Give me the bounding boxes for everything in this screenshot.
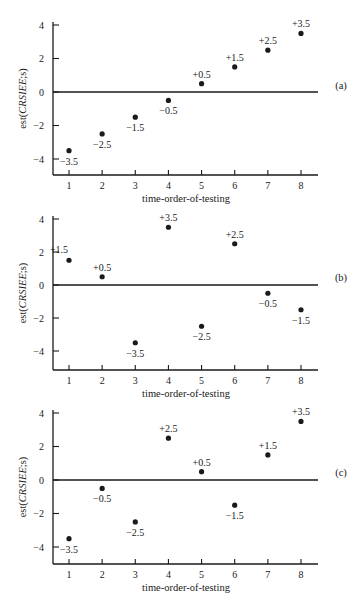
data-point (199, 324, 204, 329)
x-tick-label: 4 (166, 569, 171, 580)
panel-label: (b) (335, 272, 348, 284)
y-axis-title: est(CRSIEE;s) (17, 262, 29, 323)
x-tick-label: 7 (265, 569, 270, 580)
data-point (199, 469, 204, 474)
x-tick-label: 7 (265, 375, 270, 386)
y-tick-label: 2 (39, 441, 44, 452)
figure: 420−2−412345678time-order-of-testingest(… (0, 0, 359, 611)
data-point (166, 225, 171, 230)
data-point (66, 536, 71, 541)
y-tick-label: −4 (33, 154, 44, 165)
x-tick-label: 7 (265, 180, 270, 191)
data-point (133, 340, 138, 345)
panel-c: 420−2−412345678time-order-of-testingest(… (17, 406, 347, 593)
x-axis-title: time-order-of-testing (142, 388, 231, 399)
data-point (265, 48, 270, 53)
point-label: +0.5 (193, 69, 211, 80)
panel-label: (a) (335, 80, 347, 92)
x-tick-label: 5 (199, 569, 204, 580)
x-tick-label: 3 (133, 180, 138, 191)
y-tick-label: −2 (33, 313, 44, 324)
y-tick-label: −2 (33, 120, 44, 131)
y-tick-label: 0 (39, 280, 44, 291)
x-tick-label: 3 (133, 569, 138, 580)
x-tick-label: 2 (100, 569, 105, 580)
x-tick-label: 1 (67, 180, 72, 191)
x-tick-label: 6 (232, 180, 237, 191)
y-tick-label: 0 (39, 475, 44, 486)
data-point (166, 98, 171, 103)
y-tick-label: 2 (39, 247, 44, 258)
data-point (66, 148, 71, 153)
point-label: −1.5 (226, 510, 244, 521)
y-tick-label: −4 (33, 346, 44, 357)
x-tick-label: 3 (133, 375, 138, 386)
point-label: +3.5 (292, 18, 310, 29)
data-point (298, 307, 303, 312)
y-tick-label: 4 (39, 214, 44, 225)
y-axis-title: est(CRSIEE;s) (17, 68, 29, 129)
data-point (100, 131, 105, 136)
x-tick-label: 5 (199, 180, 204, 191)
data-point (232, 64, 237, 69)
point-label: −3.5 (60, 156, 78, 167)
point-label: −2.5 (93, 139, 111, 150)
data-point (100, 274, 105, 279)
point-label: +3.5 (159, 212, 177, 223)
y-tick-label: −2 (33, 508, 44, 519)
panel-b: 420−2−412345678time-order-of-testingest(… (17, 212, 348, 399)
point-label: −1.5 (292, 315, 310, 326)
point-label: +2.5 (259, 35, 277, 46)
y-tick-label: 4 (39, 20, 44, 31)
point-label: +0.5 (93, 262, 111, 273)
data-point (298, 31, 303, 36)
panel-a: 420−2−412345678time-order-of-testingest(… (17, 18, 347, 204)
y-tick-label: 2 (39, 53, 44, 64)
point-label: +0.5 (193, 457, 211, 468)
data-point (298, 419, 303, 424)
y-tick-label: 4 (39, 408, 44, 419)
x-tick-label: 8 (299, 180, 304, 191)
point-label: −0.5 (159, 105, 177, 116)
x-axis-title: time-order-of-testing (142, 193, 231, 204)
point-label: −0.5 (93, 493, 111, 504)
x-tick-label: 4 (166, 180, 171, 191)
point-label: +2.5 (159, 423, 177, 434)
y-tick-label: −4 (33, 542, 44, 553)
data-point (265, 291, 270, 296)
point-label: −3.5 (60, 544, 78, 555)
x-tick-label: 8 (299, 375, 304, 386)
data-point (265, 452, 270, 457)
x-tick-label: 1 (67, 375, 72, 386)
point-label: −3.5 (126, 348, 144, 359)
data-point (66, 258, 71, 263)
point-label: +3.5 (292, 406, 310, 417)
point-label: +1.5 (50, 244, 68, 255)
panel-label: (c) (335, 467, 347, 479)
point-label: +1.5 (226, 52, 244, 63)
point-label: +1.5 (259, 440, 277, 451)
point-label: −2.5 (126, 527, 144, 538)
data-point (232, 503, 237, 508)
point-label: +2.5 (226, 229, 244, 240)
point-label: −0.5 (259, 298, 277, 309)
point-label: −1.5 (126, 122, 144, 133)
y-tick-label: 0 (39, 87, 44, 98)
x-tick-label: 2 (100, 375, 105, 386)
data-point (232, 241, 237, 246)
data-point (166, 436, 171, 441)
y-axis-title: est(CRSIEE;s) (17, 456, 29, 517)
x-tick-label: 8 (299, 569, 304, 580)
data-point (133, 115, 138, 120)
data-point (133, 519, 138, 524)
data-point (100, 486, 105, 491)
x-tick-label: 6 (232, 375, 237, 386)
x-tick-label: 2 (100, 180, 105, 191)
x-tick-label: 4 (166, 375, 171, 386)
data-point (199, 81, 204, 86)
x-tick-label: 1 (67, 569, 72, 580)
point-label: −2.5 (193, 331, 211, 342)
x-axis-title: time-order-of-testing (142, 582, 231, 593)
x-tick-label: 6 (232, 569, 237, 580)
x-tick-label: 5 (199, 375, 204, 386)
